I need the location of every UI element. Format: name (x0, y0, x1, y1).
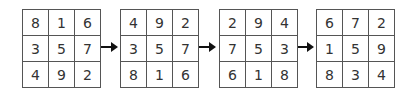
cell: 3 (343, 62, 369, 88)
cell: 9 (49, 62, 75, 88)
cell: 4 (23, 62, 49, 88)
cell: 2 (75, 62, 101, 88)
cell: 4 (272, 10, 298, 36)
cell: 6 (75, 10, 101, 36)
cell: 6 (317, 10, 343, 36)
cell: 7 (343, 10, 369, 36)
cell: 9 (369, 36, 395, 62)
cell: 7 (220, 36, 246, 62)
magic-square-1: 8 1 6 3 5 7 4 9 2 (22, 9, 101, 88)
cell: 4 (121, 10, 147, 36)
cell: 6 (220, 62, 246, 88)
cell: 5 (343, 36, 369, 62)
right-arrow-icon (199, 46, 214, 48)
cell: 2 (369, 10, 395, 36)
cell: 5 (49, 36, 75, 62)
cell: 2 (173, 10, 199, 36)
cell: 8 (23, 10, 49, 36)
cell: 1 (49, 10, 75, 36)
cell: 1 (147, 62, 173, 88)
cell: 5 (147, 36, 173, 62)
cell: 3 (23, 36, 49, 62)
cell: 3 (272, 36, 298, 62)
cell: 2 (220, 10, 246, 36)
cell: 8 (317, 62, 343, 88)
cell: 3 (121, 36, 147, 62)
cell: 1 (317, 36, 343, 62)
right-arrow-icon (101, 46, 116, 48)
cell: 8 (272, 62, 298, 88)
cell: 6 (173, 62, 199, 88)
cell: 1 (246, 62, 272, 88)
cell: 5 (246, 36, 272, 62)
cell: 8 (121, 62, 147, 88)
cell: 4 (369, 62, 395, 88)
cell: 7 (75, 36, 101, 62)
magic-square-3: 2 9 4 7 5 3 6 1 8 (219, 9, 298, 88)
magic-square-2: 4 9 2 3 5 7 8 1 6 (120, 9, 199, 88)
right-arrow-icon (298, 46, 312, 48)
cell: 9 (147, 10, 173, 36)
magic-square-4: 6 7 2 1 5 9 8 3 4 (316, 9, 395, 88)
cell: 7 (173, 36, 199, 62)
cell: 9 (246, 10, 272, 36)
